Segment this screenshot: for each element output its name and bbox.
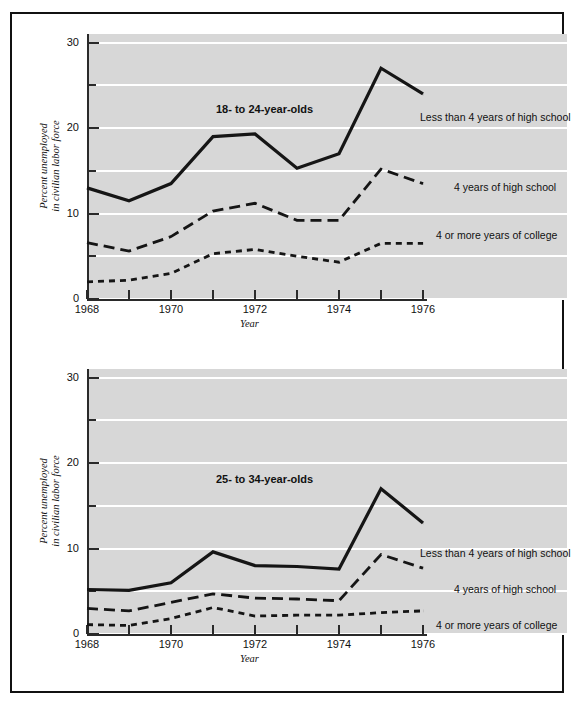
chart-panel-top: 010203019681970197219741976 Percent unem… [12, 16, 566, 356]
figure-root: 010203019681970197219741976 Percent unem… [0, 0, 575, 706]
y-axis-title-bottom: Percent unemployed in civilian labor for… [38, 436, 62, 566]
series-line-2 [87, 608, 423, 626]
y-axis-title-top-line1: Percent unemployed [38, 101, 50, 231]
series-line-0 [87, 68, 423, 201]
y-axis-title-top: Percent unemployed in civilian labor for… [38, 101, 62, 231]
series-label-top-1: 4 years of high school [454, 181, 556, 193]
y-axis-title-top-line2: in civilian labor force [50, 101, 62, 231]
series-label-top-2: 4 or more years of college [436, 229, 557, 241]
chart-title-top: 18- to 24-year-olds [216, 103, 313, 115]
x-axis-title-bottom: Year [240, 653, 259, 664]
series-label-bottom-0: Less than 4 years of high school [420, 547, 571, 559]
series-label-top-0: Less than 4 years of high school [420, 111, 571, 123]
chart-panel-bottom: 010203019681970197219741976 Percent unem… [12, 351, 566, 691]
series-line-1 [87, 169, 423, 251]
x-axis-title-top: Year [240, 318, 259, 329]
y-axis-title-bottom-line1: Percent unemployed [38, 436, 50, 566]
y-axis-title-bottom-line2: in civilian labor force [50, 436, 62, 566]
figure-border: 010203019681970197219741976 Percent unem… [10, 12, 564, 693]
series-line-0 [87, 489, 423, 591]
series-canvas-bottom [12, 351, 566, 691]
series-label-bottom-2: 4 or more years of college [436, 619, 557, 631]
series-label-bottom-1: 4 years of high school [454, 583, 556, 595]
chart-title-bottom: 25- to 34-year-olds [216, 473, 313, 485]
series-line-1 [87, 555, 423, 611]
